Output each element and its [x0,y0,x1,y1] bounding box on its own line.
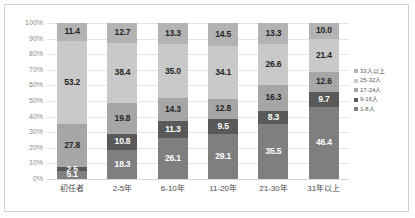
bar-segment[interactable]: 38.4 [107,43,137,103]
bar-value-label: 14.3 [165,105,181,114]
bar-value-label: 46.4 [316,138,332,147]
bar-column[interactable]: 11.453.227.82.55.1 [57,23,87,179]
bar-value-label: 27.8 [64,141,80,150]
bar-column[interactable]: 13.335.014.311.326.1 [158,23,188,179]
y-axis-tick: 90% [29,35,43,43]
legend-item[interactable]: 9-16人 [354,96,408,104]
bar-segment[interactable]: 13.3 [258,23,288,44]
bar-segment[interactable]: 21.4 [309,39,339,72]
bar-segment[interactable]: 12.7 [107,23,137,43]
y-axis-tick: 60% [29,81,43,89]
x-axis-tick: 2-5年 [97,183,147,199]
bar-segment[interactable]: 9.7 [309,92,339,107]
plot-area: 11.453.227.82.55.112.738.419.810.818.313… [47,23,349,179]
y-axis-tick: 100% [25,19,43,27]
bar-segment[interactable]: 26.6 [258,44,288,85]
legend-label: 9-16人 [360,96,378,103]
bar-value-label: 35.0 [165,67,181,76]
bar-segment[interactable]: 11.4 [57,23,87,41]
bar-value-label: 34.1 [215,68,231,77]
bar-value-label: 26.6 [266,60,282,69]
bar-value-label: 11.4 [65,27,80,36]
bar-segment[interactable]: 13.3 [158,23,188,44]
bar-value-label: 12.8 [215,104,231,113]
bar-segment[interactable]: 14.3 [158,98,188,120]
bar-value-label: 13.3 [266,29,282,38]
y-axis-tick: 20% [29,144,43,152]
bar-segment[interactable]: 5.1 [57,171,87,179]
y-axis-tick: 80% [29,50,43,58]
bar-segment[interactable]: 11.3 [158,121,188,139]
legend-label: 17-24人 [360,87,381,94]
y-axis: 100%90%80%70%60%50%40%30%20%10%0% [9,17,45,185]
legend-label: 25-32人 [360,77,381,84]
legend-item[interactable]: 17-24人 [354,86,408,94]
bar-value-label: 10.0 [316,26,332,35]
bar-segment[interactable]: 26.1 [158,138,188,179]
bar-segment[interactable]: 29.1 [208,134,238,179]
bar-value-label: 53.2 [64,78,80,87]
bar-value-label: 5.1 [67,170,78,179]
y-axis-tick: 30% [29,128,43,136]
x-axis-tick: 21-30年 [248,183,298,199]
bar-segment[interactable]: 14.5 [208,23,238,46]
bar-column[interactable]: 13.326.616.38.335.5 [258,23,288,179]
bar-segment[interactable]: 12.8 [208,99,238,119]
chart-legend: 33人以上25-32人17-24人9-16人1-8人 [354,67,408,115]
bar-value-label: 18.3 [115,160,131,169]
bar-segment[interactable]: 8.3 [258,111,288,124]
bar-segment[interactable]: 18.3 [107,150,137,179]
bar-value-label: 38.4 [115,68,131,77]
bar-value-label: 21.4 [316,51,332,60]
bar-value-label: 8.3 [268,113,279,122]
x-axis: 初任者2-5年6-10年11-20年21-30年31年以上 [47,183,349,199]
bar-segment[interactable]: 10.0 [309,23,339,39]
y-axis-tick: 50% [29,97,43,105]
bar-segment[interactable]: 27.8 [57,124,87,167]
legend-swatch [354,69,358,73]
bar-value-label: 9.5 [218,122,229,131]
bar-segment[interactable]: 9.5 [208,119,238,134]
bar-value-label: 16.3 [266,93,282,102]
x-axis-tick: 初任者 [47,183,97,199]
gridline [47,179,349,180]
bar-segment[interactable]: 53.2 [57,41,87,124]
bar-segment[interactable]: 19.8 [107,103,137,134]
bar-segment[interactable]: 34.1 [208,46,238,99]
bar-column[interactable]: 12.738.419.810.818.3 [107,23,137,179]
bar-segment[interactable]: 35.5 [258,124,288,179]
bar-segment[interactable]: 10.8 [107,134,137,151]
x-axis-tick: 11-20年 [198,183,248,199]
legend-swatch [354,107,358,111]
legend-swatch [354,79,358,83]
bar-value-label: 11.3 [165,125,180,134]
legend-label: 1-8人 [360,106,375,113]
chart-frame: 100%90%80%70%60%50%40%30%20%10%0% 11.453… [4,4,409,212]
bar-segment[interactable]: 46.4 [309,107,339,179]
bar-segment[interactable]: 35.0 [158,44,188,99]
legend-item[interactable]: 1-8人 [354,105,408,113]
bar-value-label: 14.5 [215,30,231,39]
bar-value-label: 26.1 [165,154,181,163]
legend-swatch [354,98,358,102]
y-axis-tick: 40% [29,113,43,121]
bar-value-label: 35.5 [266,147,282,156]
bar-value-label: 12.7 [115,28,131,37]
legend-item[interactable]: 33人以上 [354,67,408,75]
legend-item[interactable]: 25-32人 [354,77,408,85]
bar-column[interactable]: 10.021.412.69.746.4 [309,23,339,179]
bar-value-label: 29.1 [215,152,231,161]
x-axis-tick: 31年以上 [299,183,349,199]
legend-label: 33人以上 [360,68,385,75]
y-axis-tick: 70% [29,66,43,74]
y-axis-tick: 10% [29,159,43,167]
bar-column[interactable]: 14.534.112.89.529.1 [208,23,238,179]
bar-value-label: 9.7 [318,95,329,104]
bar-segment[interactable]: 12.6 [309,72,339,92]
bar-value-label: 13.3 [165,29,181,38]
bar-value-label: 10.8 [115,137,131,146]
y-axis-tick: 0% [33,175,43,183]
bar-segment[interactable]: 16.3 [258,85,288,110]
x-axis-tick: 6-10年 [148,183,198,199]
bar-value-label: 19.8 [115,114,131,123]
